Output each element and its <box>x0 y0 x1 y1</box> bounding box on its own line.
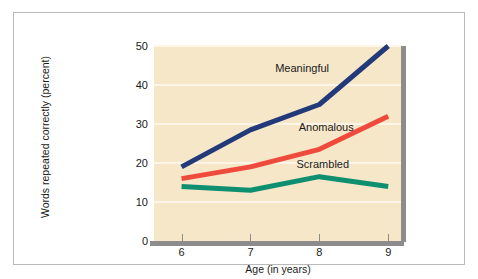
plot-right-edge-shadow <box>401 46 406 242</box>
y-axis-tick-label: 50 <box>120 41 148 52</box>
x-axis-tick-label: 8 <box>307 247 331 258</box>
figure-frame: 01020304050 Words repeated correctly (pe… <box>13 12 465 265</box>
series-line-scrambled <box>182 177 389 191</box>
y-axis-title: Words repeated correctly (percent) <box>39 32 51 242</box>
x-axis-tick-label: 7 <box>238 247 262 258</box>
x-axis-tick <box>250 234 251 241</box>
x-axis-tick-label: 9 <box>376 247 400 258</box>
series-lines <box>154 46 402 241</box>
x-axis-tick <box>388 234 389 241</box>
x-axis-tick <box>182 234 183 241</box>
figure: 01020304050 Words repeated correctly (pe… <box>0 0 478 279</box>
y-axis-tick-label: 40 <box>120 80 148 91</box>
x-axis-tick <box>319 234 320 241</box>
y-axis-tick-label: 10 <box>120 197 148 208</box>
series-label-scrambled: Scrambled <box>296 159 349 170</box>
y-axis-tick-label: 30 <box>120 119 148 130</box>
x-axis-line <box>150 241 404 246</box>
y-axis-tick-labels: 01020304050 <box>118 13 148 279</box>
y-axis-tick-label: 0 <box>120 236 148 247</box>
series-label-meaningful: Meaningful <box>275 63 329 74</box>
series-label-anomalous: Anomalous <box>299 122 354 133</box>
x-axis-title: Age (in years) <box>154 263 402 275</box>
y-axis-tick-label: 20 <box>120 158 148 169</box>
x-axis-tick-label: 6 <box>170 247 194 258</box>
plot-area: MeaningfulAnomalousScrambled <box>154 46 402 241</box>
